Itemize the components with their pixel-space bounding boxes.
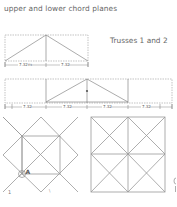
truss-1-elevation (5, 35, 88, 67)
truss-1-dim-2: 7.32 (61, 62, 70, 67)
truss-1-dim-1: 7.32m (19, 62, 32, 67)
plan-left-diagonal-grid (3, 117, 78, 192)
truss-2-dim-3: 7.32 (103, 104, 112, 109)
structural-diagram: 7.32m 7.32 7.32 7.32 7.32 7.32 (0, 0, 177, 207)
truss-2-dim-4: 7.32 (142, 104, 151, 109)
truss-2-dim-2: 7.32 (63, 104, 72, 109)
cropped-edge-glyph (174, 178, 176, 192)
plan-right-grid (91, 117, 165, 192)
truss-2-dim-1: 7.32 (23, 104, 32, 109)
node-label-a: A (26, 168, 31, 175)
plan-mark-1: 1 (8, 189, 11, 195)
plan-mark-2: \ (49, 188, 51, 193)
